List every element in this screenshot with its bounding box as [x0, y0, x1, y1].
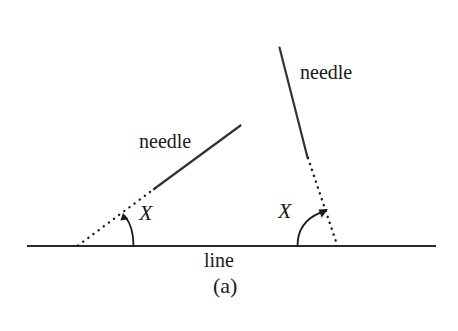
- baseline-label: line: [204, 250, 234, 270]
- angle-label-left: X: [139, 202, 152, 224]
- angle-label-right: X: [278, 200, 291, 222]
- figure-caption: (a): [213, 275, 237, 297]
- needle-label-right: needle: [300, 62, 352, 82]
- angle-arc-right: [298, 213, 321, 246]
- needle-diagram-figure: needle needle X X line (a): [0, 0, 458, 331]
- angle-arc-left: [125, 217, 134, 247]
- needle-right-dotted-extension: [308, 158, 338, 246]
- needle-label-left: needle: [139, 131, 191, 151]
